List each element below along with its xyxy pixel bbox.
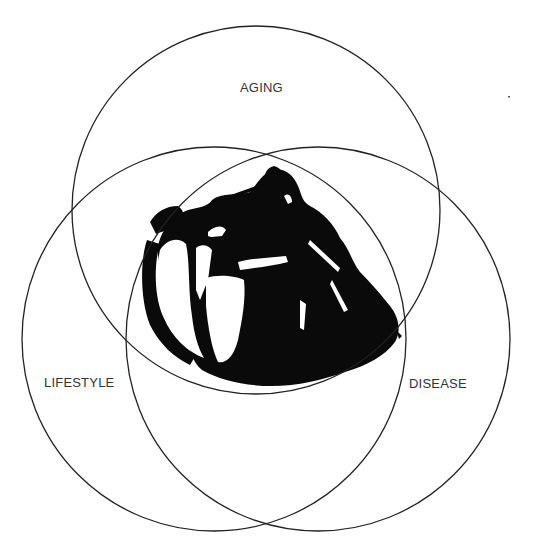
label-aging: AGING: [240, 80, 283, 95]
label-disease: DISEASE: [409, 376, 467, 391]
label-lifestyle: LIFESTYLE: [44, 375, 114, 390]
heart-illustration-icon: [142, 166, 402, 386]
speck: [508, 96, 510, 98]
